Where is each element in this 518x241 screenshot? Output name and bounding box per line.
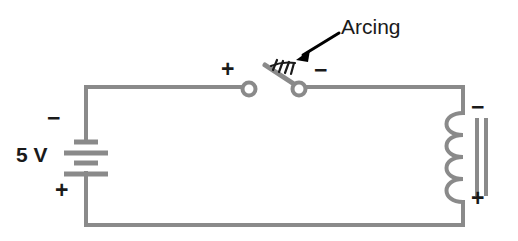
circuit-schematic-svg	[0, 0, 518, 241]
battery-negative-label: −	[47, 107, 60, 130]
circuit-wires	[86, 87, 463, 225]
circuit-diagram: 5 V − + + − − + Arcing	[0, 0, 518, 241]
battery-positive-label: +	[55, 179, 68, 202]
arcing-callout-label: Arcing	[341, 16, 401, 37]
source-value-label: 5 V	[16, 144, 48, 165]
arc-mark-4	[291, 63, 294, 74]
inductor-coil	[447, 113, 464, 202]
coil-positive-label: +	[471, 187, 484, 210]
coil-loops	[447, 113, 464, 202]
arc-mark-3	[285, 62, 289, 73]
switch-left-polarity-label: +	[221, 58, 234, 81]
switch-right-polarity-label: −	[314, 59, 327, 82]
coil-negative-label: −	[471, 96, 484, 119]
arrow-head	[296, 50, 310, 62]
battery-symbol	[64, 142, 108, 174]
switch-terminal-right	[293, 83, 306, 96]
switch-terminal-left	[243, 83, 256, 96]
